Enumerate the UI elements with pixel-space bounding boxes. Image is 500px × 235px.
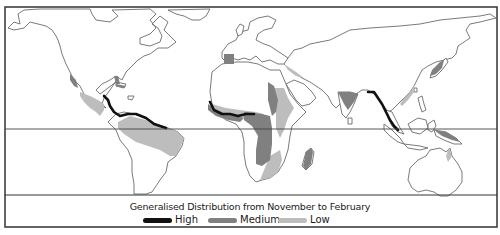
legend-item-high: High (143, 214, 198, 226)
legend-label-low: Low (310, 214, 330, 226)
taiwan (414, 88, 417, 92)
legend-label-high: High (175, 214, 198, 226)
legend-item-low: Low (278, 214, 330, 226)
medium-swatch-icon (208, 218, 237, 223)
legend-item-medium: Medium (208, 214, 280, 226)
low-swatch-icon (278, 218, 307, 223)
legend-label-medium: Medium (240, 214, 280, 226)
legend-row: High Medium Low (0, 214, 500, 226)
high-swatch-icon (143, 218, 172, 223)
sri-lanka (348, 118, 352, 124)
legend-title: Generalised Distribution from November t… (0, 201, 500, 212)
legend: Generalised Distribution from November t… (0, 196, 500, 226)
medium-iberia (224, 54, 234, 64)
